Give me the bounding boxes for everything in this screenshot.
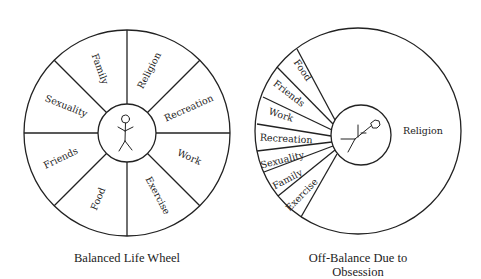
segment-label-recreation: Recreation [260,132,313,146]
segment-label-friends: Friends [41,145,79,171]
stick-figure-icon [118,115,133,151]
off-balance-title-line2: Obsession [332,265,384,279]
off-balance-title-line1: Off-Balance Due to [309,251,407,265]
stick-figure-icon [341,120,380,152]
segment-label-work: Work [267,106,295,124]
balanced-life-wheel: Family Religion Recreation Work Exercise… [24,30,230,236]
balanced-wheel-title: Balanced Life Wheel [74,251,180,265]
segment-label-religion: Religion [135,50,163,90]
segment-label-recreation: Recreation [162,92,215,123]
segment-label-family: Family [90,52,112,86]
inner-circle [98,104,156,162]
segment-label-religion: Religion [403,125,443,136]
segment-label-exercise: Exercise [144,175,173,217]
segment-label-food: Food [292,57,315,83]
diagram-canvas: Family Religion Recreation Work Exercise… [0,0,481,279]
inner-circle [331,105,391,165]
segment-label-sexuality: Sexuality [44,92,90,119]
segment-label-food: Food [88,186,107,212]
segment-label-work: Work [176,147,204,167]
spokes [24,30,230,236]
off-balance-wheel: Religion Food Friends Work Recreation Se… [255,28,461,234]
segment-label-friends: Friends [271,78,307,109]
